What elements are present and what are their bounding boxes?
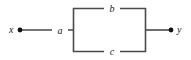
block-label-c: c bbox=[104, 46, 120, 58]
input-terminal-label: x bbox=[9, 25, 13, 35]
block-label-a: a bbox=[52, 25, 68, 37]
block-label-b: b bbox=[104, 3, 120, 15]
output-terminal-label: y bbox=[177, 25, 181, 35]
diagram-canvas bbox=[0, 0, 191, 60]
signal-flow-diagram: x a b c y bbox=[0, 0, 191, 60]
input-node-dot bbox=[18, 28, 23, 33]
output-node-dot bbox=[169, 28, 174, 33]
